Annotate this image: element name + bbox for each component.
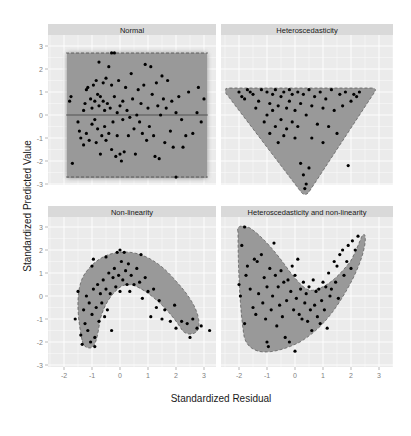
data-point bbox=[83, 102, 86, 105]
data-point bbox=[90, 123, 93, 126]
data-point bbox=[104, 139, 107, 142]
data-point bbox=[160, 317, 163, 320]
data-point bbox=[93, 100, 96, 103]
data-point bbox=[169, 130, 172, 133]
data-point bbox=[337, 297, 340, 300]
panel-title-heteroscedasticity: Heteroscedasticity bbox=[276, 26, 338, 35]
data-point bbox=[310, 136, 313, 139]
data-point bbox=[174, 176, 177, 179]
data-point bbox=[155, 81, 158, 84]
data-point bbox=[281, 315, 284, 318]
data-point bbox=[271, 93, 274, 96]
data-point bbox=[282, 281, 285, 284]
data-point bbox=[172, 146, 175, 149]
data-point bbox=[149, 315, 152, 318]
data-point bbox=[267, 345, 270, 348]
data-point bbox=[166, 79, 169, 82]
data-point bbox=[118, 153, 121, 156]
data-point bbox=[100, 134, 103, 137]
data-point bbox=[261, 301, 264, 304]
data-point bbox=[163, 141, 166, 144]
data-point bbox=[188, 336, 191, 339]
data-point bbox=[307, 285, 310, 288]
data-point bbox=[85, 132, 88, 135]
data-point bbox=[293, 136, 296, 139]
data-point bbox=[141, 132, 144, 135]
data-point bbox=[208, 329, 211, 332]
data-point bbox=[130, 274, 133, 277]
data-point bbox=[83, 322, 86, 325]
data-point bbox=[124, 86, 127, 89]
data-point bbox=[284, 336, 287, 339]
data-point bbox=[104, 288, 107, 291]
data-point bbox=[139, 253, 142, 256]
data-point bbox=[131, 97, 134, 100]
data-point bbox=[249, 90, 252, 93]
data-point bbox=[89, 97, 92, 100]
data-point bbox=[121, 278, 124, 281]
data-point bbox=[93, 345, 96, 348]
data-point bbox=[184, 134, 187, 137]
data-point bbox=[330, 88, 333, 91]
data-point bbox=[344, 90, 347, 93]
data-point bbox=[69, 95, 72, 98]
data-point bbox=[99, 95, 102, 98]
data-point bbox=[81, 343, 84, 346]
data-point bbox=[314, 290, 317, 293]
y-tick-label: -3 bbox=[37, 181, 43, 188]
data-point bbox=[293, 274, 296, 277]
data-point bbox=[335, 265, 338, 268]
data-point bbox=[79, 136, 82, 139]
data-point bbox=[165, 107, 168, 110]
y-tick-label: 2 bbox=[39, 247, 43, 254]
data-point bbox=[123, 251, 126, 254]
data-point bbox=[279, 269, 282, 272]
data-point bbox=[293, 109, 296, 112]
data-point bbox=[282, 134, 285, 137]
data-point bbox=[279, 95, 282, 98]
data-point bbox=[324, 97, 327, 100]
data-point bbox=[263, 276, 266, 279]
data-point bbox=[327, 125, 330, 128]
data-point bbox=[288, 340, 291, 343]
data-point bbox=[277, 285, 280, 288]
data-point bbox=[71, 162, 74, 165]
faceted-scatter-chart: Normal Heteroscedasticity Non-linearity … bbox=[0, 0, 411, 436]
data-point bbox=[95, 306, 98, 309]
y-tick-label: 3 bbox=[39, 224, 43, 231]
data-point bbox=[124, 269, 127, 272]
data-point bbox=[305, 113, 308, 116]
data-point bbox=[271, 109, 274, 112]
data-point bbox=[82, 308, 85, 311]
x-tick-label: 1 bbox=[146, 372, 150, 379]
data-point bbox=[310, 329, 313, 332]
data-point bbox=[141, 297, 144, 300]
data-point bbox=[351, 239, 354, 242]
data-point bbox=[93, 336, 96, 339]
data-point bbox=[195, 327, 198, 330]
panel-title-non-linearity: Non-linearity bbox=[111, 208, 153, 217]
data-point bbox=[107, 65, 110, 68]
data-point bbox=[277, 141, 280, 144]
data-point bbox=[111, 120, 114, 123]
data-point bbox=[320, 299, 323, 302]
panel-bg-non-linearity bbox=[48, 217, 216, 367]
data-point bbox=[286, 278, 289, 281]
data-point bbox=[354, 248, 357, 251]
data-point bbox=[197, 86, 200, 89]
data-point bbox=[321, 141, 324, 144]
data-point bbox=[121, 100, 124, 103]
data-point bbox=[74, 317, 77, 320]
data-point bbox=[160, 74, 163, 77]
data-point bbox=[295, 297, 298, 300]
data-point bbox=[110, 51, 113, 54]
data-point bbox=[260, 88, 263, 91]
data-point bbox=[97, 61, 100, 64]
data-point bbox=[146, 107, 149, 110]
data-point bbox=[139, 102, 142, 105]
data-point bbox=[158, 299, 161, 302]
data-point bbox=[347, 244, 350, 247]
y-tick-label: 1 bbox=[39, 270, 43, 277]
data-point bbox=[82, 143, 85, 146]
data-point bbox=[268, 267, 271, 270]
